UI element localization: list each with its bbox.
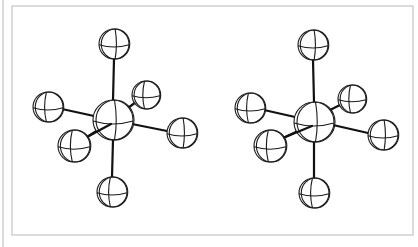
- ligand-atom-back-right: [132, 81, 161, 109]
- figure-frame: [3, 0, 413, 247]
- ligand-atom-bottom: [97, 177, 128, 207]
- ligand-atom-right: [368, 120, 399, 150]
- bond-right: [132, 124, 167, 131]
- central-atom: [294, 102, 335, 142]
- central-atom: [93, 100, 134, 140]
- inner-frame: [12, 6, 413, 235]
- right-view: [235, 30, 399, 208]
- bond-left: [264, 110, 295, 117]
- ligand-atom-front-left: [254, 130, 287, 162]
- ligand-atom-right: [167, 118, 198, 148]
- stereo-molecule-diagram: [0, 0, 418, 247]
- bond-top: [113, 59, 114, 100]
- bond-right: [333, 125, 368, 133]
- ligand-atom-left: [33, 92, 64, 122]
- ligand-atom-back-right: [338, 85, 367, 113]
- ligand-atom-front-left: [58, 130, 91, 162]
- left-view: [33, 29, 198, 207]
- bond-left: [62, 109, 94, 116]
- ligand-atom-top: [298, 30, 329, 60]
- bond-bottom: [112, 140, 113, 177]
- molecule-views: [33, 29, 399, 208]
- bond-top: [313, 60, 314, 102]
- ligand-atom-top: [99, 29, 130, 59]
- ligand-atom-bottom: [299, 178, 330, 208]
- ligand-atom-left: [235, 93, 266, 123]
